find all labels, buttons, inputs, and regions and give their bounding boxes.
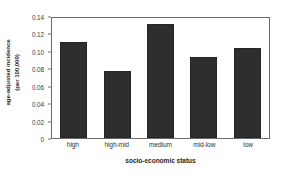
x-axis-tick-label: mid-low [182, 141, 226, 153]
bar-slot [95, 18, 138, 138]
y-axis-tick-label: 0.02 [32, 118, 44, 125]
y-axis-title-line1: age-adjusted incidence [4, 39, 11, 105]
y-axis-title: age-adjusted incidence (per 100,000) [0, 0, 24, 145]
bar-slot [182, 18, 225, 138]
plot-area [51, 17, 270, 139]
x-axis-tick-label: high [51, 141, 95, 153]
y-axis-tick-label: 0.10 [32, 48, 44, 55]
y-axis-title-line2: (per 100,000) [12, 39, 21, 105]
x-axis-tick-labels: highhigh-midmediummid-lowlow [51, 141, 270, 153]
y-axis-tick-label: 0.06 [32, 83, 44, 90]
x-axis-tick-label: high-mid [95, 141, 139, 153]
y-axis-tick-label: 0.12 [32, 31, 44, 38]
bar-high[interactable] [60, 42, 87, 138]
bar-slot [139, 18, 182, 138]
y-axis-tick-label: 0.14 [32, 14, 44, 21]
x-axis-tick-label: low [226, 141, 270, 153]
bar-low[interactable] [234, 48, 261, 138]
y-axis-tick-label: 0.08 [32, 66, 44, 73]
y-axis-tick-label: 0 [41, 136, 44, 143]
y-axis-title-text: age-adjusted incidence (per 100,000) [4, 39, 21, 105]
x-axis-title: socio-economic status [51, 157, 270, 164]
bar-series [52, 18, 269, 138]
bar-mid-low[interactable] [190, 57, 217, 138]
x-axis-tick-label: medium [139, 141, 183, 153]
bar-high-mid[interactable] [104, 71, 131, 138]
bar-slot [226, 18, 269, 138]
bar-medium[interactable] [147, 24, 174, 138]
y-axis-tick-label: 0.04 [32, 101, 44, 108]
bar-slot [52, 18, 95, 138]
y-axis-tick-labels: 0.140.120.100.080.060.040.020 [22, 17, 48, 139]
bar-chart-figure: age-adjusted incidence (per 100,000) 0.1… [0, 0, 287, 180]
